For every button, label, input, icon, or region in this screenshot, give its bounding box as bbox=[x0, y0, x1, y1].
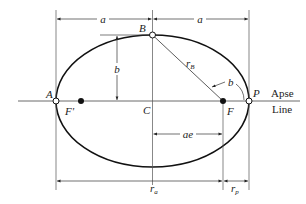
apse-label-line1: Apse bbox=[271, 87, 294, 99]
label-point-a: A bbox=[45, 88, 53, 100]
label-f-prime: F' bbox=[64, 105, 75, 117]
label-f: F bbox=[226, 105, 234, 117]
point-p bbox=[246, 98, 252, 104]
label-point-c: C bbox=[143, 104, 151, 116]
point-b bbox=[150, 32, 156, 38]
label-a-right: a bbox=[197, 13, 203, 25]
label-angle-b: b bbox=[228, 76, 234, 88]
point-a bbox=[53, 98, 59, 104]
angle-leader bbox=[212, 82, 225, 87]
angle-arc bbox=[236, 84, 244, 100]
label-ra: ra bbox=[150, 182, 158, 196]
label-point-b: B bbox=[139, 22, 146, 34]
label-ae: ae bbox=[183, 128, 194, 140]
focus-f bbox=[220, 98, 226, 104]
label-point-p: P bbox=[252, 87, 260, 99]
label-rb: rB bbox=[186, 57, 195, 71]
label-rp: rp bbox=[231, 182, 239, 196]
focus-f-prime bbox=[78, 98, 84, 104]
ellipse-diagram: a a b rB b ae ra rp A B C F' F P Apse Li… bbox=[0, 0, 306, 204]
label-b: b bbox=[114, 63, 120, 75]
apse-label-line2: Line bbox=[272, 103, 292, 115]
label-a-left: a bbox=[100, 13, 106, 25]
